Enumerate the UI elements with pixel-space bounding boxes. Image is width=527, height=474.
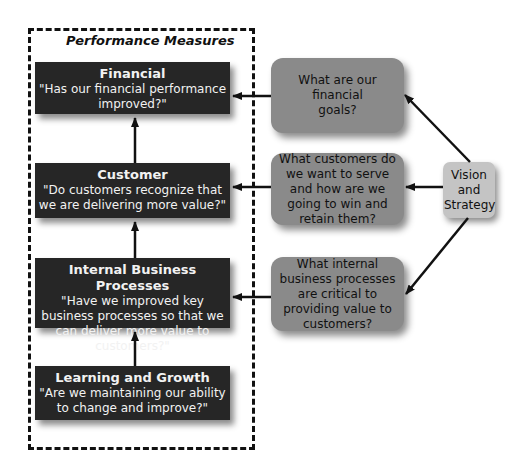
arrows	[0, 0, 527, 474]
